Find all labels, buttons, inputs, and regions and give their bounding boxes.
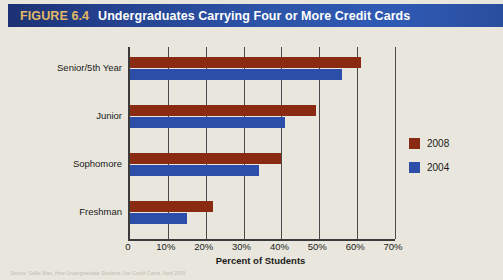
x-tick-label: 40% <box>270 241 289 252</box>
x-tick-label: 0 <box>125 241 130 252</box>
bar-senior-5th-year-2008 <box>130 57 361 68</box>
bar-group <box>130 105 395 128</box>
category-label: Sophomore <box>4 158 122 169</box>
x-tick-label: 30% <box>232 241 251 252</box>
bar-junior-2008 <box>130 105 316 116</box>
source-note: Source: Sallie Mae, How Undergraduate St… <box>10 270 500 276</box>
bar-group <box>130 153 395 176</box>
bar-group <box>130 201 395 224</box>
category-axis-labels: Senior/5th YearJuniorSophomoreFreshman <box>0 47 122 239</box>
bar-freshman-2008 <box>130 201 213 212</box>
x-tick-label: 10% <box>156 241 175 252</box>
legend-entry-2008: 2008 <box>409 138 449 149</box>
x-tick-label: 60% <box>346 241 365 252</box>
category-label: Senior/5th Year <box>4 62 122 73</box>
chart-legend: 20082004 <box>409 138 449 186</box>
category-label: Junior <box>4 110 122 121</box>
bar-sophomore-2004 <box>130 165 259 176</box>
x-tick-label: 50% <box>308 241 327 252</box>
figure-title-bar: FIGURE 6.4 Undergraduates Carrying Four … <box>8 4 503 27</box>
bar-senior-5th-year-2004 <box>130 69 342 80</box>
plot-area <box>128 47 395 241</box>
legend-swatch-icon <box>409 138 420 149</box>
figure-body: Senior/5th YearJuniorSophomoreFreshman 0… <box>0 27 503 263</box>
x-tick-label: 70% <box>383 241 402 252</box>
legend-label: 2004 <box>427 162 449 173</box>
bar-freshman-2004 <box>130 213 187 224</box>
bar-junior-2004 <box>130 117 285 128</box>
legend-label: 2008 <box>427 138 449 149</box>
x-axis-title: Percent of Students <box>128 255 393 266</box>
figure-title-label: Undergraduates Carrying Four or More Cre… <box>98 9 410 23</box>
bar-group <box>130 57 395 80</box>
legend-entry-2004: 2004 <box>409 162 449 173</box>
gridline <box>395 47 396 239</box>
figure-number-label: FIGURE 6.4 <box>20 9 89 23</box>
bar-sophomore-2008 <box>130 153 281 164</box>
legend-swatch-icon <box>409 162 420 173</box>
category-label: Freshman <box>4 206 122 217</box>
x-tick-label: 20% <box>194 241 213 252</box>
